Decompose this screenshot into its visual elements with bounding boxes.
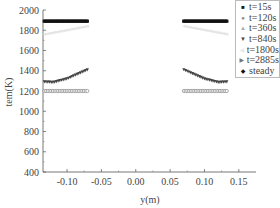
y-tick-label: 1200 — [19, 86, 39, 97]
circle-marker-icon: ● — [239, 13, 247, 23]
y-tick-label: 1400 — [19, 65, 39, 76]
x-tick-label: 0.15 — [230, 176, 248, 187]
y-tick-label: 1000 — [19, 106, 39, 117]
legend-label: t=840s — [249, 34, 276, 44]
x-tick-label: 0.00 — [127, 176, 145, 187]
x-tick-label: -0.05 — [91, 176, 112, 187]
y-tick-label: 2000 — [19, 5, 39, 16]
x-tick-label: 0.05 — [161, 176, 179, 187]
data-point — [86, 89, 89, 92]
y-tick-label: 400 — [24, 167, 39, 178]
x-axis-title: y(m) — [140, 194, 159, 206]
square-marker-icon: ■ — [239, 2, 247, 12]
data-series — [43, 20, 229, 93]
y-axis-title: tem(K) — [3, 78, 15, 107]
x-tick-label: 0.10 — [196, 176, 214, 187]
legend-item-steady: ◆steady — [239, 66, 279, 77]
legend-item-t840: ▼t=840s — [239, 34, 279, 45]
legend-item-t2885: ▶t=2885s — [239, 55, 279, 66]
diamond-marker-icon: ◆ — [239, 66, 247, 76]
triangle-left-marker-icon: ◀ — [239, 45, 245, 55]
x-tick-label: -0.10 — [57, 176, 78, 187]
legend-label: t=15s — [249, 2, 271, 12]
legend-label: t=360s — [249, 23, 276, 33]
y-tick-label: 600 — [24, 146, 39, 157]
legend-label: t=120s — [249, 13, 276, 23]
legend-label: t=2885s — [247, 55, 279, 65]
legend-label: steady — [249, 66, 275, 76]
y-tick-label: 800 — [24, 126, 39, 137]
legend-label: t=1800s — [247, 45, 279, 55]
triangle-down-marker-icon: ▼ — [239, 34, 247, 44]
data-point — [225, 89, 228, 92]
legend-item-t15: ■t=15s — [239, 2, 279, 13]
y-tick-label: 1800 — [19, 25, 39, 36]
legend: ■t=15s ●t=120s ▲t=360s ▼t=840s ◀t=1800s … — [235, 0, 280, 78]
triangle-up-marker-icon: ▲ — [239, 23, 247, 33]
y-tick-label: 1600 — [19, 45, 39, 56]
triangle-right-marker-icon: ▶ — [239, 55, 245, 65]
